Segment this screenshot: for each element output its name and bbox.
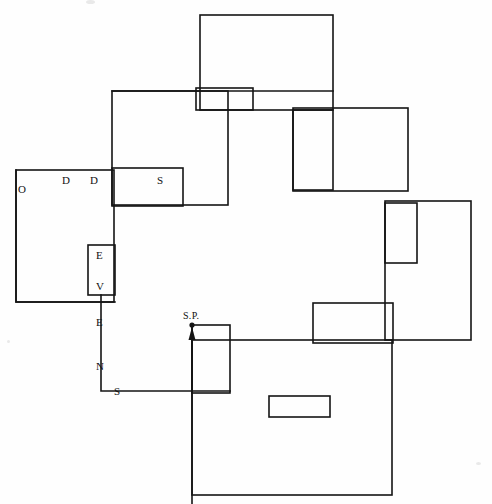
right-wide-rect [293,108,408,191]
sp-rect [192,325,230,393]
odds-s-rect [112,168,183,206]
odds-letter-3: S [157,175,163,186]
start-point-arrow-layer [189,322,196,393]
right-tall-narrow-rect [293,110,333,190]
odds-letter-1: D [62,175,70,186]
connector-layer [16,91,333,504]
evens-letter-3: N [96,361,104,372]
evens-letter-1: V [96,281,104,292]
rectangle-layer [16,15,471,495]
top-large-rect [200,15,333,110]
odds-letter-0: O [18,184,26,195]
line-diagram-svg [0,0,492,504]
lower-mid-rect [313,303,393,343]
sp-origin-dot [189,322,194,327]
evens-letter-4: S [114,386,120,397]
scan-speck-right [476,462,481,465]
odds-letter-2: D [90,175,98,186]
sp-arrow-head [189,327,196,340]
evens-down-path [101,295,230,391]
evens-letter-0: E [96,250,103,261]
start-point-label: S.P. [183,311,199,321]
diagram-canvas: ODDSEVENSS.P. [0,0,492,504]
scan-speck-left [7,340,10,343]
evens-letter-2: E [96,317,103,328]
mid-right-narrow-rect [385,203,417,263]
mid-right-large-rect [385,201,471,340]
scan-speck-top [86,0,95,4]
bottom-small-rect [269,396,330,417]
odds-upper-rect [112,91,228,205]
